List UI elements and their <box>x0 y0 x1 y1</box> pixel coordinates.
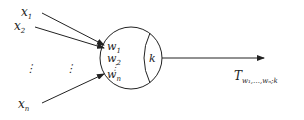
input-arrow-n <box>42 74 104 103</box>
input-ellipsis-left: ⋮ <box>25 62 36 75</box>
input-ellipsis-right: ⋮ <box>65 62 76 75</box>
weight-label-n: wn <box>107 68 121 83</box>
input-arrow-1 <box>42 13 104 45</box>
input-arrow-2 <box>35 27 104 48</box>
threshold-label: k <box>149 52 156 65</box>
output-label: Tw₁,…,wₙ;k <box>234 69 278 85</box>
input-label-2: x2 <box>14 19 26 35</box>
input-label-n: xn <box>18 97 30 113</box>
input-label-1: x1 <box>21 5 32 21</box>
neuron-diagram: x1 x2 xn ⋮ ⋮ w1 w2 ⋮ wn k Tw₁,…,wₙ;k <box>0 0 304 120</box>
